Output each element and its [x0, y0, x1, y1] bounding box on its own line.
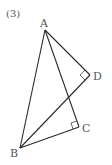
geometry-figure: (3) A B C D [0, 0, 112, 165]
problem-number: (3) [6, 8, 20, 19]
label-b: B [10, 147, 18, 160]
label-c: C [82, 122, 90, 135]
segment-bc [20, 127, 79, 148]
label-d: D [93, 70, 102, 83]
right-angle-mark-d [80, 70, 85, 80]
segment-ad [45, 30, 90, 75]
segment-ac [45, 30, 79, 127]
segment-ab [20, 30, 45, 148]
segment-bd [20, 75, 90, 148]
label-a: A [39, 17, 49, 30]
